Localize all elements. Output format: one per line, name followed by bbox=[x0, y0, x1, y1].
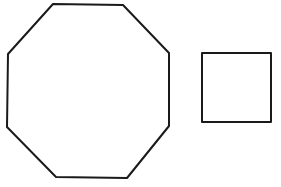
diagram-canvas bbox=[0, 0, 281, 187]
square-shape bbox=[202, 53, 271, 122]
octagon-shape bbox=[7, 4, 169, 178]
